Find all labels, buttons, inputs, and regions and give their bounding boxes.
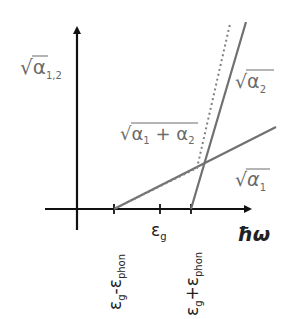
x-axis-label: ħω: [237, 222, 270, 246]
svg-text:√α1: √α1: [235, 168, 266, 193]
curve-sqrt-alpha1-plus-alpha2: [116, 24, 230, 208]
svg-text:√α2: √α2: [235, 70, 266, 95]
tick-label-eg-minus-ephon: εg-εphon: [105, 254, 127, 310]
svg-text:√α1 + α2: √α1 + α2: [120, 123, 195, 146]
tick-label-eg-plus-ephon: εg+εphon: [182, 252, 204, 316]
diagram: √α1,2 √α2 √α1 + α2 √α1 ħω εg εg-εphon εg…: [0, 0, 288, 319]
y-axis-label: √α1,2: [20, 55, 62, 81]
tick-label-eg: εg: [151, 220, 167, 242]
label-sqrt-alpha1: √α1: [235, 168, 270, 193]
label-sqrt-alpha1-plus-alpha2: √α1 + α2: [120, 123, 198, 146]
label-sqrt-alpha2: √α2: [235, 70, 274, 95]
